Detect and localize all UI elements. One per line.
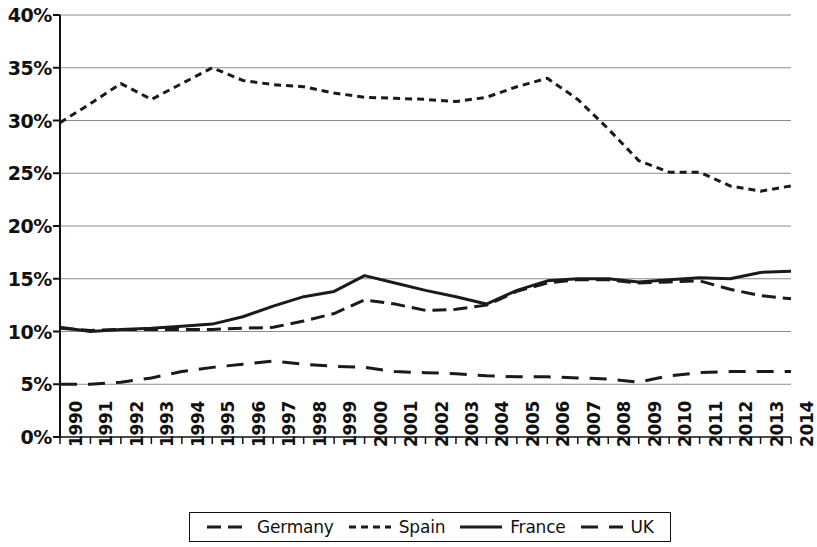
x-axis-tick-label: 1999 xyxy=(340,401,360,447)
legend-item-spain[interactable]: Spain xyxy=(348,517,446,537)
x-axis-tick-label: 2008 xyxy=(614,401,634,447)
x-axis-tick-label: 1992 xyxy=(127,401,147,447)
legend-line-swatch xyxy=(206,521,250,533)
x-axis-tick-label: 1993 xyxy=(157,401,177,447)
x-axis-tick-label: 1994 xyxy=(188,401,208,447)
legend-label: Germany xyxy=(257,517,334,537)
x-axis-tick-label: 2009 xyxy=(645,401,665,447)
legend-item-france[interactable]: France xyxy=(459,517,565,537)
legend-label: France xyxy=(510,517,565,537)
x-axis-tick-label: 2002 xyxy=(432,401,452,447)
x-axis-tick-label: 1997 xyxy=(279,401,299,447)
x-axis-tick-label: 2000 xyxy=(371,401,391,447)
legend-label: UK xyxy=(631,517,654,537)
x-axis-tick-label: 1991 xyxy=(96,401,116,447)
x-axis-tick-label: 2010 xyxy=(675,401,695,447)
x-axis-tick-label: 2006 xyxy=(553,401,573,447)
x-axis-tick-label: 2005 xyxy=(523,401,543,447)
x-axis-tick-label: 2013 xyxy=(767,401,787,447)
x-axis-tick-label: 2007 xyxy=(584,401,604,447)
x-axis-tick-label: 2012 xyxy=(736,401,756,447)
x-axis-tick-label: 2014 xyxy=(797,401,817,447)
x-axis-tick-label: 1995 xyxy=(218,401,238,447)
x-axis-tick-label: 2003 xyxy=(462,401,482,447)
x-axis-tick-label: 1996 xyxy=(249,401,269,447)
legend-label: Spain xyxy=(399,517,446,537)
x-axis-tick-label: 1990 xyxy=(66,401,86,447)
x-axis-tick-label: 2004 xyxy=(492,401,512,447)
x-axis-tick-label: 2011 xyxy=(706,401,726,447)
x-axis-tick-label: 1998 xyxy=(310,401,330,447)
legend-item-germany[interactable]: Germany xyxy=(206,517,334,537)
legend-line-swatch xyxy=(348,521,392,533)
legend-item-uk[interactable]: UK xyxy=(580,517,654,537)
x-axis-tick-label: 2001 xyxy=(401,401,421,447)
legend-line-swatch xyxy=(580,521,624,533)
chart-legend: GermanySpainFranceUK xyxy=(189,512,671,542)
legend-line-swatch xyxy=(459,521,503,533)
